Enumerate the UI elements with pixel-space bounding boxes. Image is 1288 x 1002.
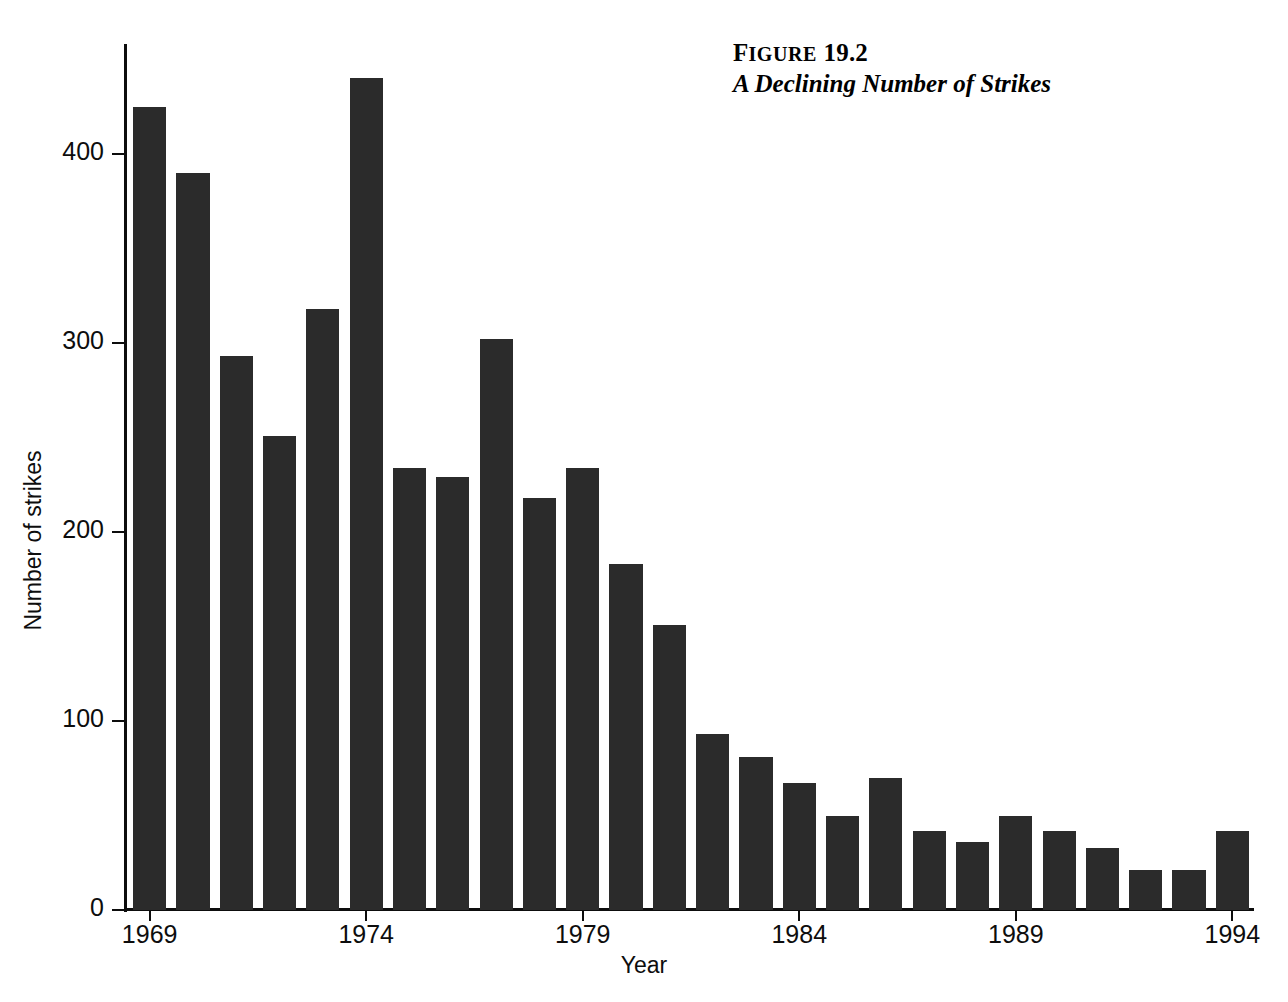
y-axis-title: Number of strikes (20, 261, 47, 821)
y-axis-tick-label: 400 (34, 137, 104, 166)
bar (566, 468, 599, 910)
y-axis-tick (112, 720, 126, 722)
bar (263, 436, 296, 910)
bar (739, 757, 772, 910)
bar (393, 468, 426, 910)
y-axis-tick (112, 153, 126, 155)
bar (133, 107, 166, 910)
bar (176, 173, 209, 910)
y-axis-tick (112, 909, 126, 911)
x-axis-tick-label: 1984 (739, 920, 859, 949)
bar (783, 783, 816, 910)
bar (1216, 831, 1249, 910)
y-axis-tick (112, 342, 126, 344)
bar (306, 309, 339, 910)
bar (350, 78, 383, 910)
bar (1172, 870, 1205, 910)
x-axis-tick-label: 1979 (523, 920, 643, 949)
bar (609, 564, 642, 910)
bar (1086, 848, 1119, 910)
x-axis-title: Year (0, 952, 1288, 979)
bar (653, 625, 686, 910)
bar (999, 816, 1032, 911)
x-axis-tick-label: 1974 (306, 920, 426, 949)
bar (480, 339, 513, 910)
y-axis-tick (112, 531, 126, 533)
bar (826, 816, 859, 911)
bar (436, 477, 469, 910)
bar (1043, 831, 1076, 910)
bar (956, 842, 989, 910)
x-axis-tick-label: 1989 (956, 920, 1076, 949)
bar (696, 734, 729, 910)
bar (913, 831, 946, 910)
x-axis-tick-label: 1994 (1172, 920, 1288, 949)
bar (220, 356, 253, 910)
x-axis-tick-label: 1969 (90, 920, 210, 949)
y-axis-tick-label: 0 (34, 893, 104, 922)
bar (523, 498, 556, 910)
bar-chart: 0100200300400 Number of strikes 19691974… (0, 0, 1288, 1002)
bars-layer (126, 44, 1252, 910)
bar (1129, 870, 1162, 910)
bar (869, 778, 902, 910)
